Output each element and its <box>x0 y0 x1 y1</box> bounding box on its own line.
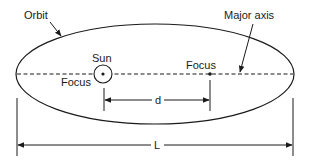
L-label: L <box>154 139 160 151</box>
left-focus-label: Focus <box>61 76 91 88</box>
right-focus-label: Focus <box>186 59 216 71</box>
major-axis-label: Major axis <box>224 9 275 21</box>
major-axis-leader-arrow <box>240 24 253 72</box>
elliptical-orbit-diagram: Orbit Major axis Sun Focus Focus d L <box>0 0 310 160</box>
orbit-leader-arrow <box>50 22 61 36</box>
orbit-label: Orbit <box>24 9 48 21</box>
sun-label: Sun <box>92 52 112 64</box>
sun-center-dot <box>101 72 104 75</box>
d-label: d <box>155 94 161 106</box>
right-focus-dot <box>208 72 212 76</box>
